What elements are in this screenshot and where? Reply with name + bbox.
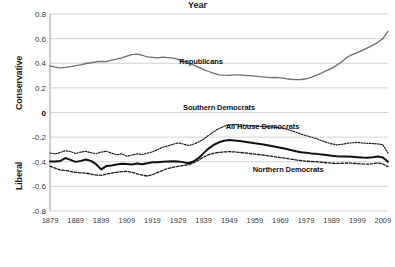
series-label-northern-democrats: Northern Democrats bbox=[253, 165, 324, 174]
series-line-southern-democrats bbox=[50, 125, 388, 157]
series-label-southern-democrats: Southern Democrats bbox=[183, 103, 255, 112]
ideology-line-chart: Conservative Liberal 0.80.60.40.20-0.2-0… bbox=[0, 0, 395, 267]
series-label-republicans: Republicans bbox=[179, 57, 223, 66]
plot-area bbox=[0, 0, 395, 267]
series-line-northern-democrats bbox=[50, 152, 388, 176]
series-label-all-house-democrats: All House Democrats bbox=[226, 122, 300, 131]
